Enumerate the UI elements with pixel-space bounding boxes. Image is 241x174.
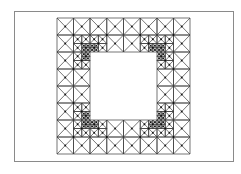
mesh-edges (57, 18, 190, 154)
mesh-diagram (0, 0, 241, 174)
